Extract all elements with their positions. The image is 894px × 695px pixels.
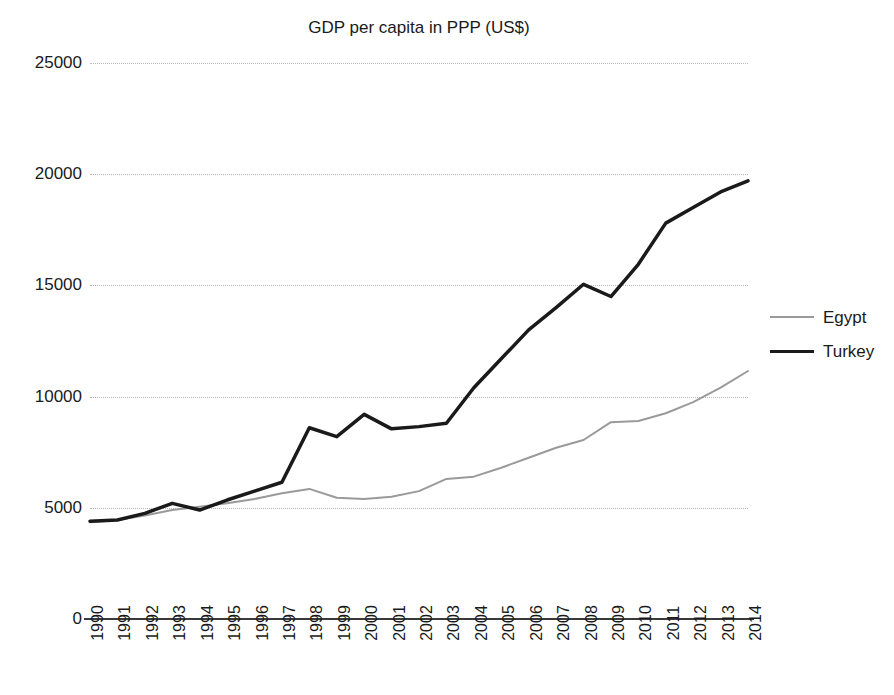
x-axis-tick-label: 2001 (384, 623, 400, 683)
y-axis-tick-label: 0 (6, 610, 82, 627)
chart-legend: EgyptTurkey (770, 300, 894, 368)
x-axis-tick-label: 1991 (109, 623, 125, 683)
x-axis-tick-label: 2002 (411, 623, 427, 683)
x-axis-tick-labels: 1990199119921993199419951996199719981999… (90, 623, 748, 695)
legend-swatch (770, 350, 814, 353)
x-axis-tick-label: 2009 (603, 623, 619, 683)
x-axis-tick-label: 2006 (521, 623, 537, 683)
x-axis-tick-label: 2010 (630, 623, 646, 683)
x-axis-tick-label: 1992 (137, 623, 153, 683)
x-axis-tick-label: 2004 (466, 623, 482, 683)
legend-label: Egypt (823, 309, 866, 326)
x-axis-tick-label: 1999 (329, 623, 345, 683)
x-axis-tick-label: 2005 (493, 623, 509, 683)
y-axis-tick-label: 10000 (6, 388, 82, 405)
x-axis-tick-label: 2013 (713, 623, 729, 683)
series-line-turkey (90, 181, 748, 521)
x-axis-tick-label: 2008 (576, 623, 592, 683)
legend-entry-egypt[interactable]: Egypt (770, 300, 894, 334)
x-axis-tick-label: 2000 (356, 623, 372, 683)
x-axis-tick-label: 1998 (301, 623, 317, 683)
y-axis-tick-label: 15000 (6, 276, 82, 293)
x-axis-tick-label: 2014 (740, 623, 756, 683)
legend-swatch (770, 316, 814, 318)
x-axis-tick-label: 1997 (274, 623, 290, 683)
chart-figure: GDP per capita in PPP (US$) 050001000015… (0, 0, 894, 695)
y-axis-tick-label: 25000 (6, 54, 82, 71)
x-axis-tick-label: 1990 (82, 623, 98, 683)
y-axis-tick-label: 5000 (6, 499, 82, 516)
y-axis-tick-label: 20000 (6, 165, 82, 182)
plot-area (90, 63, 748, 619)
x-axis-tick-label: 1995 (219, 623, 235, 683)
x-axis-tick-label: 2007 (548, 623, 564, 683)
series-lines (90, 63, 748, 619)
x-axis-tick-label: 2011 (658, 623, 674, 683)
legend-entry-turkey[interactable]: Turkey (770, 334, 894, 368)
chart-title: GDP per capita in PPP (US$) (90, 18, 748, 38)
x-axis-tick-label: 1996 (247, 623, 263, 683)
x-axis-tick-label: 2003 (438, 623, 454, 683)
x-axis-tick-label: 2012 (685, 623, 701, 683)
legend-label: Turkey (823, 343, 874, 360)
y-axis-tick-labels: 0500010000150002000025000 (0, 0, 82, 695)
x-axis-tick-label: 1993 (164, 623, 180, 683)
x-axis-tick-label: 1994 (192, 623, 208, 683)
series-line-egypt (90, 371, 748, 522)
